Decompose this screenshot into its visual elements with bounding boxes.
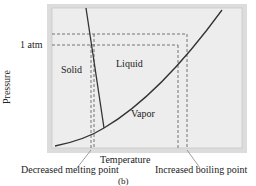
region-vapor-label: Vapor (131, 109, 155, 119)
melting-annotation: Decreased melting point (21, 165, 119, 175)
y-axis-label: Pressure (2, 70, 12, 104)
boiling-annotation: Increased boiling point (155, 165, 247, 175)
plot-area (52, 8, 242, 148)
pressure-marker-label: 1 atm (20, 40, 43, 50)
region-liquid-label: Liquid (116, 59, 143, 69)
region-solid-label: Solid (61, 65, 82, 75)
caption: (b) (118, 177, 129, 186)
